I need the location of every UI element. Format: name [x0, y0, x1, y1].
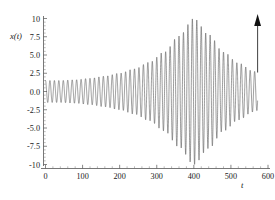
- y-tick-label: 5.0: [30, 51, 40, 60]
- x-tick-label: 100: [76, 172, 88, 181]
- plot-figure: -10-7.5-5.0-2.50.02.55.07.510 0100200300…: [0, 0, 275, 200]
- x-tick-label: 300: [151, 172, 163, 181]
- x-tick-label: 0: [43, 172, 47, 181]
- y-axis-label: x(t): [9, 31, 22, 41]
- x-tick-label: 200: [114, 172, 126, 181]
- y-tick-label: -7.5: [27, 142, 40, 151]
- x-axis-label: t: [241, 180, 244, 190]
- y-tick-label: 10: [32, 15, 40, 24]
- waveform-path: [46, 19, 258, 164]
- y-tick-label: 2.5: [30, 69, 40, 78]
- y-tick-label: 0.0: [30, 88, 40, 97]
- arrow-head-glyph: [254, 14, 261, 26]
- annotation-arrow: [254, 14, 261, 72]
- x-axis-ticks: [46, 165, 269, 169]
- x-tick-label: 400: [188, 172, 200, 181]
- y-axis-tick-labels: -10-7.5-5.0-2.50.02.55.07.510: [27, 15, 40, 170]
- y-tick-label: -5.0: [27, 124, 40, 133]
- x-tick-label: 600: [262, 172, 274, 181]
- chart-svg: -10-7.5-5.0-2.50.02.55.07.510 0100200300…: [0, 0, 275, 200]
- x-tick-label: 500: [225, 172, 237, 181]
- y-tick-label: -10: [29, 161, 40, 170]
- y-tick-label: 7.5: [30, 33, 40, 42]
- x-axis-tick-labels: 0100200300400500600: [43, 172, 274, 181]
- y-tick-label: -2.5: [27, 106, 40, 115]
